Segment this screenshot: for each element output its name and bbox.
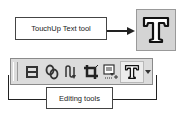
touchup-text-callout: TouchUp Text tool (15, 17, 107, 40)
link-icon (45, 64, 59, 80)
reading-order-tool-button[interactable] (61, 61, 81, 83)
reading-order-icon (64, 64, 78, 80)
article-tool-button[interactable] (22, 61, 42, 83)
editing-toolbar (10, 58, 153, 85)
touchup-text-tool-enlarged (136, 9, 176, 51)
editing-tools-callout: Editing tools (46, 87, 113, 109)
editing-tools-callout-label: Editing tools (59, 94, 100, 103)
crop-tool-button[interactable] (81, 61, 101, 83)
article-icon (25, 65, 39, 79)
touchup-tools-dropdown[interactable] (144, 61, 152, 83)
touchup-text-tool-button[interactable] (120, 61, 144, 83)
touchup-text-callout-label: TouchUp Text tool (31, 24, 90, 33)
touchup-text-icon (124, 64, 140, 80)
chevron-down-icon (145, 70, 151, 74)
arrow-shaft (107, 30, 129, 32)
link-tool-button[interactable] (42, 61, 62, 83)
touchup-text-icon (141, 15, 171, 45)
touchup-object-tool-button[interactable] (101, 61, 121, 83)
touchup-object-icon (103, 64, 119, 80)
toolbar-grip[interactable] (13, 62, 18, 81)
arrow-head-icon (127, 27, 135, 35)
crop-icon (83, 64, 99, 80)
